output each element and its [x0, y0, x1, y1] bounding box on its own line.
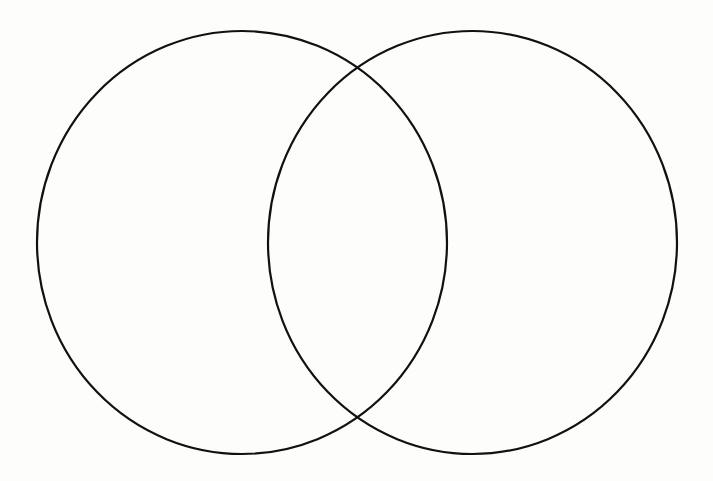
venn-diagram-svg	[0, 0, 713, 481]
diagram-background	[0, 0, 713, 481]
venn-diagram	[0, 0, 713, 481]
